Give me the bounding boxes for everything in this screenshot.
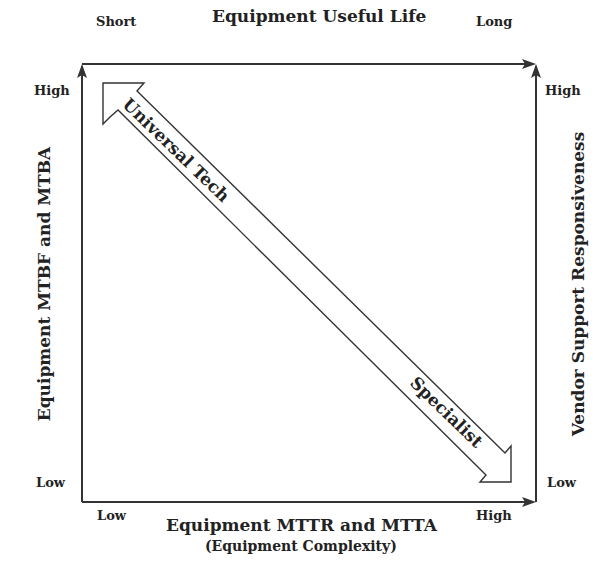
right-axis-bottom-label: Low xyxy=(547,475,576,490)
top-axis-title: Equipment Useful Life xyxy=(212,6,426,26)
left-axis-top-label: High xyxy=(34,83,70,98)
left-axis-title: Equipment MTBF and MTBA xyxy=(34,147,54,422)
bottom-axis-subtitle: (Equipment Complexity) xyxy=(205,538,397,554)
diagram-canvas xyxy=(0,0,616,586)
right-axis-title: Vendor Support Responsiveness xyxy=(568,132,588,437)
right-axis-top-label: High xyxy=(545,83,581,98)
left-axis-bottom-label: Low xyxy=(36,475,65,490)
bottom-axis-start-label: Low xyxy=(97,508,126,523)
top-axis-end-label: Long xyxy=(476,14,512,29)
bottom-axis-end-label: High xyxy=(476,508,512,523)
top-axis-start-label: Short xyxy=(96,14,136,29)
bottom-axis-title: Equipment MTTR and MTTA xyxy=(166,515,437,535)
